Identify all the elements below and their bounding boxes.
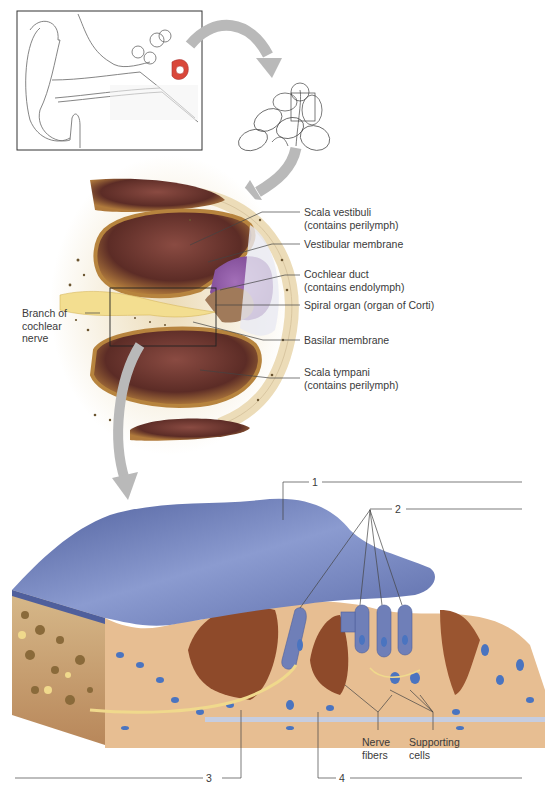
spiral-organ-3d	[12, 499, 545, 748]
callout-1: 1	[309, 476, 321, 488]
arrow-2	[258, 148, 296, 192]
label-basilar-membrane: Basilar membrane	[304, 334, 389, 347]
callout-2: 2	[392, 503, 404, 515]
label-line: cochlear	[22, 320, 67, 333]
cochlea-section-drawing	[235, 83, 333, 155]
ear-overview-panel	[17, 11, 202, 150]
label-line: cells	[409, 749, 460, 762]
label-line: fibers	[362, 749, 390, 762]
label-supporting-cells: Supporting cells	[409, 736, 460, 761]
label-line: Scala tympani	[304, 366, 399, 379]
diagram-artwork	[0, 0, 553, 795]
tectorial-membrane	[12, 499, 435, 626]
label-cochlear-nerve: Branch of cochlear nerve	[22, 307, 67, 345]
label-cochlear-duct: Cochlear duct (contains endolymph)	[304, 268, 404, 293]
label-scala-vestibuli: Scala vestibuli (contains perilymph)	[304, 206, 399, 231]
callout-3: 3	[203, 772, 215, 784]
label-line: Scala vestibuli	[304, 206, 399, 219]
label-line: (contains perilymph)	[304, 219, 399, 232]
label-line: nerve	[22, 332, 67, 345]
label-line: (contains endolymph)	[304, 281, 404, 294]
label-line: Cochlear duct	[304, 268, 404, 281]
label-line: (contains perilymph)	[304, 379, 399, 392]
label-line: Nerve	[362, 736, 390, 749]
callout-4: 4	[336, 772, 348, 784]
label-spiral-organ: Spiral organ (organ of Corti)	[304, 299, 434, 312]
label-vestibular-membrane: Vestibular membrane	[304, 238, 403, 251]
label-line: Branch of	[22, 307, 67, 320]
label-line: Supporting	[409, 736, 460, 749]
label-scala-tympani: Scala tympani (contains perilymph)	[304, 366, 399, 391]
label-nerve-fibers: Nerve fibers	[362, 736, 390, 761]
